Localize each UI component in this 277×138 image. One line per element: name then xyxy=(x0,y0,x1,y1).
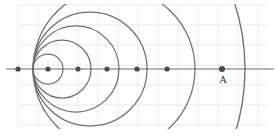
geometry-figure: A xyxy=(0,0,277,138)
margin-right xyxy=(274,0,277,138)
margin-top xyxy=(0,0,277,4)
dot-4 xyxy=(104,66,109,71)
margin-bottom xyxy=(0,129,277,138)
point-labels: A xyxy=(219,73,227,85)
label-A: A xyxy=(219,73,227,85)
dot-5 xyxy=(134,66,139,71)
dot-1 xyxy=(15,66,20,71)
dot-A xyxy=(219,66,225,72)
dot-6 xyxy=(164,66,169,71)
dot-3 xyxy=(75,66,80,71)
figure-root: A xyxy=(0,0,277,138)
margin-left xyxy=(0,0,4,138)
dot-2 xyxy=(45,66,50,71)
